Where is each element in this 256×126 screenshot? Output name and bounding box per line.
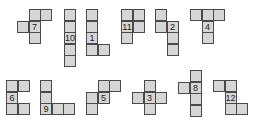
pentomino-cell: [29, 32, 41, 44]
pentomino-cell: [40, 9, 52, 21]
pentomino-cell: [190, 9, 202, 21]
pentomino-cell: [6, 103, 18, 115]
pentomino-cell: [178, 82, 190, 94]
pentomino-cell: [236, 103, 248, 115]
pentomino-cell: [64, 21, 76, 33]
pentomino-cell: [86, 21, 98, 33]
pentomino-cell: [190, 105, 202, 117]
pentomino-cell: [121, 9, 133, 21]
pentomino-cell: [18, 103, 30, 115]
pentomino-cell: [167, 44, 179, 56]
pentomino-cell: [144, 103, 156, 115]
pentomino-cell: [6, 80, 18, 92]
pentomino-cell: [86, 92, 98, 104]
pentomino-cell: [202, 9, 214, 21]
pentomino-cell: [18, 80, 30, 92]
pentomino-cell: [29, 9, 41, 21]
pentomino-label: 2: [167, 21, 179, 33]
pentomino-cell: [121, 32, 133, 44]
pentomino-cell: [98, 80, 110, 92]
pentomino-cell: [64, 9, 76, 21]
pentomino-cell: [202, 32, 214, 44]
pentomino-cell: [225, 80, 237, 92]
pentomino-cell: [86, 103, 98, 115]
pentomino-cell: [144, 80, 156, 92]
pentomino-cell: [52, 103, 64, 115]
pentomino-label: 11: [121, 21, 133, 33]
pentomino-label: 3: [144, 92, 156, 104]
pentomino-cell: [109, 80, 121, 92]
pentomino-cell: [63, 103, 75, 115]
pentomino-label: 7: [29, 21, 41, 33]
pentomino-cell: [17, 21, 29, 33]
pentomino-label: 8: [190, 82, 202, 94]
pentomino-cell: [133, 21, 145, 33]
pentomino-cell: [190, 93, 202, 105]
pentomino-cell: [167, 32, 179, 44]
pentomino-label: 4: [202, 21, 214, 33]
pentomino-cell: [155, 9, 167, 21]
pentomino-label: 6: [6, 92, 18, 104]
pentomino-cell: [98, 44, 110, 56]
pentomino-cell: [133, 9, 145, 21]
pentomino-cell: [64, 55, 76, 67]
pentomino-label: 9: [40, 103, 52, 115]
pentomino-cell: [64, 44, 76, 56]
pentomino-label: 12: [225, 92, 237, 104]
pentomino-cell: [213, 80, 225, 92]
pentomino-label: 5: [98, 92, 110, 104]
pentomino-cell: [86, 9, 98, 21]
pentomino-cell: [190, 70, 202, 82]
pentomino-cell: [213, 9, 225, 21]
pentomino-label: 1: [86, 32, 98, 44]
pentomino-cell: [155, 92, 167, 104]
pentomino-cell: [225, 103, 237, 115]
pentomino-cell: [132, 92, 144, 104]
pentomino-cell: [40, 80, 52, 92]
pentomino-cell: [155, 21, 167, 33]
pentomino-cell: [86, 44, 98, 56]
pentomino-cell: [40, 92, 52, 104]
pentomino-label: 10: [64, 32, 76, 44]
